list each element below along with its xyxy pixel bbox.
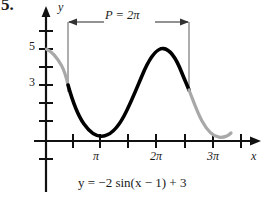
sine-curve-muted-right — [189, 90, 231, 137]
x-tick-label-pi: π — [93, 150, 99, 162]
x-axis-label: x — [251, 150, 256, 162]
sine-curve-group — [47, 49, 232, 138]
sine-curve-highlighted — [68, 49, 189, 137]
trigonometric-graph-figure: 5. y x 5 3 π 2π 3π P = 2π y = −2 sin(x −… — [0, 0, 266, 199]
function-equation-label: y = −2 sin(x − 1) + 3 — [78, 176, 186, 189]
x-tick-label-2pi: 2π — [150, 150, 162, 162]
y-axis-arrowhead — [42, 6, 51, 17]
graph-svg — [0, 0, 266, 199]
problem-number-label: 5. — [1, 0, 14, 13]
y-axis-label: y — [58, 1, 63, 13]
period-left-arrowhead — [68, 18, 77, 25]
y-tick-label-5: 5 — [29, 40, 35, 52]
period-annotation-label: P = 2π — [105, 9, 140, 22]
x-tick-label-3pi: 3π — [207, 150, 219, 162]
y-tick-label-3: 3 — [29, 76, 35, 88]
period-right-arrowhead — [180, 18, 189, 25]
x-axis-arrowhead — [250, 137, 261, 146]
